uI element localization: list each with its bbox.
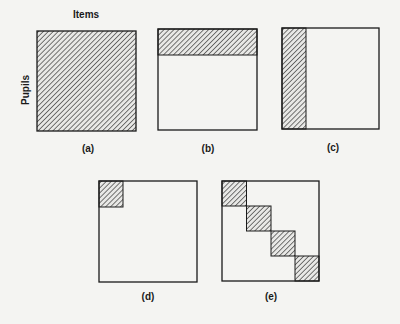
panel-e xyxy=(222,181,319,281)
panel-e-label: (e) xyxy=(265,291,277,302)
panel-c xyxy=(282,28,379,129)
panel-b-label: (b) xyxy=(202,143,215,154)
panel-a-label: (a) xyxy=(82,143,94,154)
panel-d xyxy=(99,181,197,282)
panel-c-label: (c) xyxy=(327,142,339,153)
diagram-canvas xyxy=(0,0,400,324)
panel-a xyxy=(37,31,136,131)
panel-d-label: (d) xyxy=(142,291,155,302)
panel-b xyxy=(158,29,257,130)
